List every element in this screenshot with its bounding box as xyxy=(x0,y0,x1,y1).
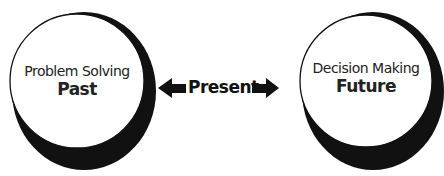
right-node-subtitle: Decision Making xyxy=(299,60,433,76)
left-node-label: Problem Solving Past xyxy=(10,63,144,99)
right-node-label: Decision Making Future xyxy=(299,60,433,96)
left-arrow-icon xyxy=(158,78,186,98)
center-label: Present xyxy=(188,77,259,97)
right-node-title: Future xyxy=(299,76,433,96)
left-node-subtitle: Problem Solving xyxy=(10,63,144,79)
left-node-title: Past xyxy=(10,79,144,99)
